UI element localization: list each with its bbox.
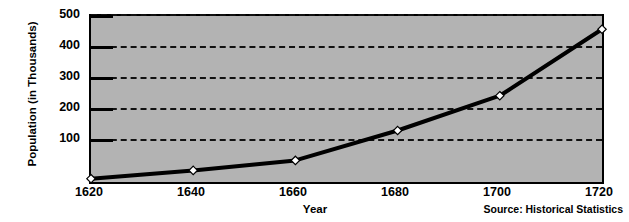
- x-tick-label-1700: 1700: [467, 186, 527, 198]
- x-tick-label-1620: 1620: [59, 186, 119, 198]
- x-tick-label-1720: 1720: [569, 186, 629, 198]
- plot-area: [89, 14, 604, 184]
- series-layer: [91, 16, 602, 182]
- source-note: Source: Historical Statistics: [484, 203, 623, 215]
- series-line-population: [91, 29, 602, 178]
- population-line-chart: Population (in Thousands) 500 400 300 20…: [0, 0, 629, 222]
- y-tick-label-500: 500: [34, 8, 80, 20]
- x-tick-label-1640: 1640: [161, 186, 221, 198]
- data-point-1620: [87, 174, 95, 182]
- y-tick-label-400: 400: [34, 39, 80, 51]
- x-axis-title: Year: [255, 203, 375, 215]
- x-tick-label-1660: 1660: [263, 186, 323, 198]
- series-markers: [87, 25, 606, 183]
- y-tick-label-300: 300: [34, 70, 80, 82]
- y-axis-title: Population (in Thousands): [26, 4, 38, 184]
- y-tick-label-200: 200: [34, 101, 80, 113]
- data-point-1640: [189, 166, 197, 174]
- y-tick-label-100: 100: [34, 132, 80, 144]
- x-tick-label-1680: 1680: [365, 186, 425, 198]
